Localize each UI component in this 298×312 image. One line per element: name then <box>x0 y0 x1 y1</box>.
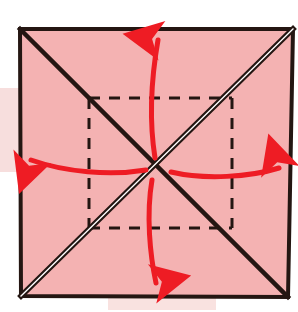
origami-diagram-figure <box>0 0 298 312</box>
origami-diagram-canvas <box>0 0 298 312</box>
smudge-bottom <box>108 297 216 310</box>
